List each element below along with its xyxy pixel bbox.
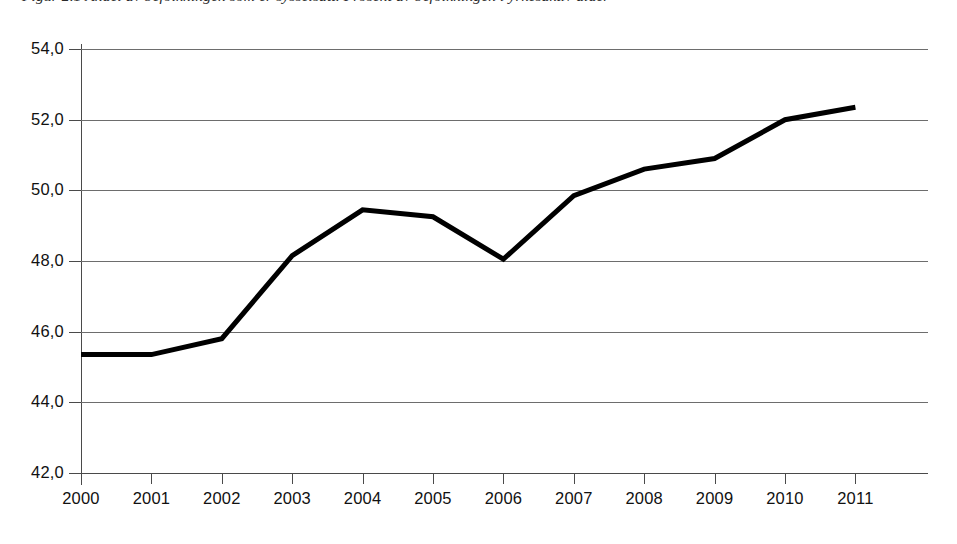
x-tick-2001 bbox=[151, 473, 152, 484]
x-axis-tick-label: 2007 bbox=[539, 489, 609, 508]
x-axis-tick-label: 2008 bbox=[609, 489, 679, 508]
x-tick-2002 bbox=[222, 473, 223, 484]
x-axis-tick-label: 2010 bbox=[750, 489, 820, 508]
x-tick-2000 bbox=[81, 473, 82, 484]
y-tick-48-0 bbox=[69, 261, 81, 262]
x-tick-2011 bbox=[855, 473, 856, 484]
gridline-46-0 bbox=[81, 332, 928, 333]
gridline-52-0 bbox=[81, 120, 928, 121]
y-axis-tick-label: 44,0 bbox=[0, 392, 64, 411]
x-axis-tick-label: 2011 bbox=[820, 489, 890, 508]
x-axis-tick-label: 2005 bbox=[398, 489, 468, 508]
y-axis-labels: 54,052,050,048,046,044,042,0 bbox=[0, 0, 64, 544]
y-axis-tick-label: 46,0 bbox=[0, 322, 64, 341]
x-axis-tick-label: 2002 bbox=[187, 489, 257, 508]
x-axis-tick-label: 2003 bbox=[257, 489, 327, 508]
y-tick-50-0 bbox=[69, 190, 81, 191]
y-axis-tick-label: 42,0 bbox=[0, 463, 64, 482]
y-axis-tick-label: 54,0 bbox=[0, 39, 64, 58]
gridline-50-0 bbox=[81, 190, 928, 191]
x-tick-2005 bbox=[433, 473, 434, 484]
x-tick-2004 bbox=[363, 473, 364, 484]
y-tick-42-0 bbox=[69, 473, 81, 474]
y-tick-46-0 bbox=[69, 332, 81, 333]
y-tick-54-0 bbox=[69, 49, 81, 50]
gridline-48-0 bbox=[81, 261, 928, 262]
gridline-54-0 bbox=[81, 49, 928, 50]
x-tick-2009 bbox=[715, 473, 716, 484]
y-tick-52-0 bbox=[69, 120, 81, 121]
x-tick-2006 bbox=[503, 473, 504, 484]
y-axis-tick-label: 52,0 bbox=[0, 110, 64, 129]
gridline-42-0 bbox=[81, 473, 928, 474]
y-axis-tick-label: 48,0 bbox=[0, 251, 64, 270]
gridline-44-0 bbox=[81, 402, 928, 403]
x-axis-tick-label: 2001 bbox=[116, 489, 186, 508]
x-tick-2003 bbox=[292, 473, 293, 484]
x-axis-tick-label: 2000 bbox=[46, 489, 116, 508]
x-tick-2008 bbox=[644, 473, 645, 484]
y-tick-44-0 bbox=[69, 402, 81, 403]
x-tick-2010 bbox=[785, 473, 786, 484]
plot-area bbox=[81, 49, 928, 473]
x-axis-tick-label: 2009 bbox=[680, 489, 750, 508]
x-tick-2007 bbox=[574, 473, 575, 484]
x-axis-tick-label: 2004 bbox=[328, 489, 398, 508]
y-axis-tick-label: 50,0 bbox=[0, 180, 64, 199]
line-chart: 54,052,050,048,046,044,042,0 20002001200… bbox=[0, 0, 957, 544]
x-axis-tick-label: 2006 bbox=[468, 489, 538, 508]
